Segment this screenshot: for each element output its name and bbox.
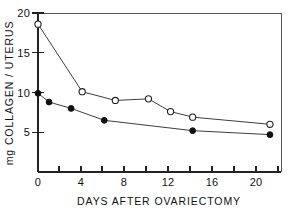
data-point xyxy=(190,128,196,134)
x-tick-label-0: 0 xyxy=(35,176,41,188)
data-series-layer xyxy=(35,21,273,138)
data-point xyxy=(167,108,173,114)
data-point xyxy=(101,117,107,123)
data-point xyxy=(35,90,41,96)
y-tick-label-15: 15 xyxy=(17,47,30,59)
x-tick-label-4: 4 xyxy=(78,176,84,188)
x-tick-label-8: 8 xyxy=(121,176,127,188)
data-point xyxy=(190,114,196,120)
plot-frame xyxy=(38,13,281,172)
x-tick-label-16: 16 xyxy=(206,176,219,188)
y-axis-title: mg COLLAGEN / UTERUS xyxy=(3,21,15,166)
x-tick-label-20: 20 xyxy=(250,176,263,188)
collagen-uterus-line-chart: 20 15 10 5 mg COLLAGEN / UTERUS 0 4 8 12 xyxy=(0,0,293,210)
data-point xyxy=(79,89,85,95)
figure-container: 20 15 10 5 mg COLLAGEN / UTERUS 0 4 8 12 xyxy=(0,0,293,210)
data-point xyxy=(68,106,74,112)
y-tick-label-10: 10 xyxy=(17,87,30,99)
y-axis: 20 15 10 5 mg COLLAGEN / UTERUS xyxy=(3,7,44,172)
y-tick-label-20: 20 xyxy=(17,7,30,19)
x-axis: 0 4 8 12 16 20 DAYS AFTER OVARIECTOMY xyxy=(35,166,281,207)
data-point xyxy=(112,97,118,103)
data-point xyxy=(46,99,52,105)
data-point xyxy=(145,96,151,102)
data-point xyxy=(35,21,41,27)
x-axis-title: DAYS AFTER OVARIECTOMY xyxy=(77,195,241,207)
y-tick-label-5: 5 xyxy=(24,126,30,138)
series-filled-circle-series xyxy=(35,90,273,137)
x-tick-label-12: 12 xyxy=(162,176,175,188)
series-line-1 xyxy=(38,93,270,134)
data-point xyxy=(267,121,273,127)
data-point xyxy=(267,132,273,138)
